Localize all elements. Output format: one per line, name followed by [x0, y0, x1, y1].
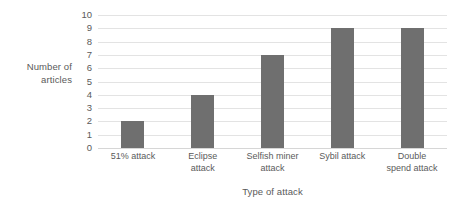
axis-baseline: [98, 148, 447, 149]
y-tick-label: 1: [70, 130, 92, 140]
y-axis-tick-labels: 109876543210: [70, 15, 92, 148]
bar-chart: Number of articles 109876543210 51% atta…: [0, 0, 467, 210]
y-tick-label: 8: [70, 37, 92, 47]
x-tick-label-line: 51% attack: [97, 151, 169, 163]
x-tick-label-line: Double: [376, 151, 448, 163]
y-axis-title-line-1: Number of: [6, 60, 72, 73]
x-tick-label-line: attack: [167, 163, 239, 175]
bar: [261, 55, 284, 148]
x-tick-label-line: spend attack: [376, 163, 448, 175]
y-axis-title-line-2: articles: [6, 73, 72, 86]
y-tick-label: 0: [70, 143, 92, 153]
x-tick-label: Sybil attack: [306, 151, 378, 163]
y-tick-label: 5: [70, 77, 92, 87]
y-tick-label: 7: [70, 50, 92, 60]
x-axis-title: Type of attack: [98, 186, 447, 197]
x-tick-label-line: attack: [237, 163, 309, 175]
y-tick-label: 10: [70, 10, 92, 20]
y-tick-label: 2: [70, 116, 92, 126]
x-tick-label-line: Eclipse: [167, 151, 239, 163]
y-tick-label: 6: [70, 63, 92, 73]
bars-layer: [98, 15, 447, 148]
bar: [331, 28, 354, 148]
y-tick-label: 4: [70, 90, 92, 100]
x-tick-label-line: Selfish miner: [237, 151, 309, 163]
x-tick-label: 51% attack: [97, 151, 169, 163]
x-tick-label: Eclipseattack: [167, 151, 239, 174]
bar: [191, 95, 214, 148]
bar: [401, 28, 424, 148]
x-tick-label-line: Sybil attack: [306, 151, 378, 163]
x-tick-label: Selfish minerattack: [237, 151, 309, 174]
y-tick-label: 3: [70, 103, 92, 113]
bar: [121, 121, 144, 148]
y-axis-title: Number of articles: [6, 60, 72, 86]
y-tick-label: 9: [70, 23, 92, 33]
x-tick-label: Doublespend attack: [376, 151, 448, 174]
x-axis-category-labels: 51% attackEclipseattackSelfish mineratta…: [98, 151, 447, 181]
